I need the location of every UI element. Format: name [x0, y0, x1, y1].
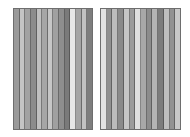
- stripe: [175, 9, 180, 129]
- stripe-panel-right: [100, 8, 181, 130]
- stripe: [87, 9, 92, 129]
- stripe-panel-left: [13, 8, 93, 130]
